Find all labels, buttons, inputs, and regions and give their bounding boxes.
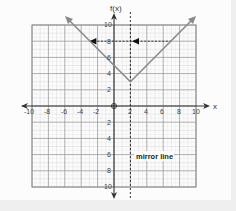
x-tick: 2 (128, 108, 132, 115)
x-tick: -6 (61, 108, 67, 115)
x-tick: -4 (77, 108, 83, 115)
x-tick: -2 (93, 108, 99, 115)
y-tick: 2 (107, 86, 111, 93)
y-tick: 4 (107, 70, 111, 77)
y-tick: 8 (107, 167, 111, 174)
y-tick: 10 (104, 21, 112, 28)
x-tick: 4 (144, 108, 148, 115)
arrowhead-icon (132, 38, 139, 44)
y-tick: 4 (107, 135, 111, 142)
x-tick: -10 (24, 108, 34, 115)
x-tick: 8 (177, 108, 181, 115)
x-tick: -8 (44, 108, 50, 115)
x-axis-label: x (213, 102, 217, 111)
mirror-line-label: mirror line (136, 152, 173, 161)
y-tick: 10 (104, 183, 112, 190)
x-tick: 10 (192, 108, 200, 115)
x-tick: 6 (160, 108, 164, 115)
y-tick: 6 (107, 54, 111, 61)
y-tick: 2 (107, 119, 111, 126)
coordinate-plane: f(x) x -10 -8 -6 -4 -2 2 4 6 8 10 10 8 6… (0, 0, 236, 211)
y-tick: 6 (107, 151, 111, 158)
y-tick: 8 (107, 38, 111, 45)
y-axis-label: f(x) (110, 4, 122, 13)
